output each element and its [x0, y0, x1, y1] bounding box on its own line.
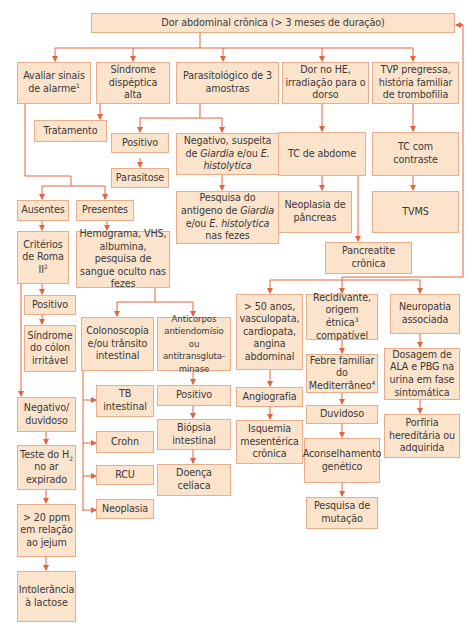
node-text: Colonoscopia e/ou trânsito intestinal	[84, 325, 151, 363]
node-text: Duvidoso	[320, 408, 364, 421]
subscript: 2	[69, 454, 73, 461]
node-text: Neuropatia associada	[393, 301, 457, 326]
text-part: Recidivante, origem étnica	[313, 292, 371, 328]
node-biopsia-intestinal: Biópsia intestinal	[157, 419, 231, 450]
node-text: Neoplasia	[102, 503, 148, 516]
node-root-label: Dor abdominal crônica (> 3 meses de dura…	[161, 17, 384, 30]
node-text: Neoplasia de pâncreas	[281, 199, 349, 224]
node-neuropatia: Neuropatia associada	[390, 294, 460, 334]
node-positivo-parasito: Positivo	[111, 133, 169, 153]
node-positivo-celiaca: Positivo	[157, 385, 231, 406]
node-text: Hemograma, VHS, albumina, pesquisa de sa…	[79, 228, 167, 291]
node-text: Parasitológico de 3 amostras	[179, 70, 276, 95]
node-20ppm: > 20 ppm em relação ao jejum	[17, 504, 76, 557]
node-colonoscopia: Colonoscopia e/ou trânsito intestinal	[81, 317, 154, 371]
node-sindrome-dispeptica: Síndrome dispéptica alta	[96, 62, 170, 104]
text-part: e/ou	[237, 148, 258, 159]
text-part: e/ou	[186, 218, 207, 229]
node-text: Positivo	[32, 299, 68, 312]
node-rcu: RCU	[96, 465, 154, 485]
node-dor-he: Dor no HE, irradiação para o dorso	[282, 62, 369, 104]
node-tvms: TVMS	[372, 191, 459, 233]
node-recidivante: Recidivante, origem étnica3 compatível	[306, 294, 378, 340]
node-text: > 50 anos, vasculopata, cardiopata, angi…	[239, 301, 300, 364]
node-text: Negativo/ duvidoso	[20, 402, 73, 427]
node-text: Pesquisa de mutação	[309, 500, 375, 525]
node-text: Parasitose	[116, 172, 164, 185]
node-text: Teste do H2 no ar expirado	[20, 449, 73, 487]
node-text: Crohn	[111, 436, 139, 449]
node-crohn: Crohn	[96, 431, 154, 453]
node-mais-50-anos: > 50 anos, vasculopata, cardiopata, angi…	[236, 294, 303, 370]
node-text: Presentes	[82, 204, 128, 217]
footnote-marker: 4	[372, 379, 376, 386]
text-italic: Giardia	[200, 148, 234, 159]
node-root: Dor abdominal crônica (> 3 meses de dura…	[91, 13, 455, 33]
node-criterios-roma: Critérios de Roma II2	[17, 231, 69, 284]
text-part: compatível	[316, 330, 368, 341]
footnote-marker: 3	[355, 316, 359, 323]
node-text: Recidivante, origem étnica3 compatível	[309, 292, 375, 342]
node-angiografia: Angiografia	[236, 387, 303, 407]
node-text: TC de abdome	[288, 148, 356, 161]
node-positivo-roma: Positivo	[24, 295, 76, 315]
node-label: Avaliar sinais de alarme1	[20, 70, 88, 95]
node-duvidoso: Duvidoso	[306, 405, 378, 424]
text-part: nas fezes	[205, 230, 249, 241]
node-text: Ausentes	[21, 204, 65, 217]
node-presentes: Presentes	[76, 200, 134, 221]
node-tc-contraste: TC com contraste	[372, 132, 459, 176]
node-tvp: TVP pregressa, história familiar de trom…	[372, 62, 459, 104]
footnote-marker: 2	[44, 263, 48, 270]
text-part: Febre familiar do Mediterrâneo	[309, 355, 375, 391]
node-febre-mediterraneo: Febre familiar do Mediterrâneo4	[306, 354, 378, 393]
node-avaliar-sinais-alarme: Avaliar sinais de alarme1	[17, 62, 91, 104]
node-aconselhamento-genetico: Aconselhamento genético	[304, 438, 380, 483]
node-text: TB intestinal	[99, 388, 151, 413]
node-doenca-celiaca: Doença celíaca	[157, 464, 231, 496]
node-pesquisa-antigeno: Pesquisa do antigeno de Giardia e/ou E. …	[176, 191, 279, 244]
node-text: Síndrome do cólon irritável	[27, 330, 73, 368]
node-intolerancia-lactose: Intolerância à lactose	[17, 571, 76, 622]
node-neoplasia-pancreas: Neoplasia de pâncreas	[278, 191, 352, 233]
footnote-marker: 1	[76, 82, 80, 89]
node-text: RCU	[115, 469, 135, 482]
node-text: > 20 ppm em relação ao jejum	[20, 512, 73, 550]
text-italic: E. histolytica	[209, 218, 269, 229]
node-text: Dor no HE, irradiação para o dorso	[285, 64, 366, 102]
node-text: TVP pregressa, história familiar de trom…	[375, 64, 456, 102]
node-porfiria: Porfiria hereditária ou adquirida	[384, 414, 460, 458]
node-tratamento: Tratamento	[34, 120, 107, 142]
node-negativo-duvidoso: Negativo/ duvidoso	[17, 397, 76, 432]
node-text: Positivo	[122, 137, 158, 150]
node-text: Aconselhamento genético	[303, 448, 382, 473]
node-text: Angiografia	[242, 391, 296, 404]
node-parasitologico: Parasitológico de 3 amostras	[176, 62, 279, 104]
node-text: Tratamento	[44, 125, 98, 138]
node-hemograma: Hemograma, VHS, albumina, pesquisa de sa…	[76, 231, 170, 288]
node-text: Positivo	[176, 389, 212, 402]
node-text: Intolerância à lactose	[19, 584, 75, 609]
node-text: Dosagem de ALA e PBG na urina em fase si…	[387, 349, 457, 399]
node-text: Pancreatite crônica	[328, 245, 409, 270]
node-anticorpos: Anticorpos antiendomísio ou antitransglu…	[157, 317, 231, 371]
node-text: Anticorpos antiendomísio ou antitransglu…	[160, 313, 228, 376]
node-text: Doença celíaca	[160, 467, 228, 492]
node-text: Pesquisa do antigeno de Giardia e/ou E. …	[179, 192, 276, 242]
node-ausentes: Ausentes	[17, 200, 69, 221]
node-dosagem-ala-pbg: Dosagem de ALA e PBG na urina em fase si…	[384, 348, 460, 400]
node-isquemia-mesenterica: Isquemia mesentérica crônica	[236, 420, 303, 464]
node-text: Critérios de Roma II2	[20, 239, 66, 277]
node-text: Febre familiar do Mediterrâneo4	[309, 355, 376, 393]
text-italic: Giardia	[240, 205, 274, 216]
text-part: no ar expirado	[26, 461, 67, 485]
node-text: Isquemia mesentérica crônica	[239, 423, 300, 461]
node-pancreatite-cronica: Pancreatite crônica	[325, 242, 412, 274]
node-tc-abdome: TC de abdome	[278, 132, 366, 176]
node-colon-irritavel: Síndrome do cólon irritável	[24, 325, 76, 372]
node-parasitose: Parasitose	[111, 168, 169, 188]
node-text: TVMS	[402, 206, 428, 219]
node-negativo-giardia: Negativo, suspeita de Giardia e/ou E. hi…	[176, 133, 279, 175]
node-text: Negativo, suspeita de Giardia e/ou E. hi…	[179, 135, 276, 173]
node-tb-intestinal: TB intestinal	[96, 385, 154, 417]
